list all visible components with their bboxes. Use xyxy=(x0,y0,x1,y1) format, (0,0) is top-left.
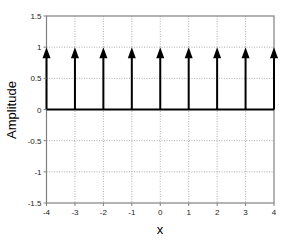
arrow-up-icon xyxy=(128,47,136,58)
x-tick-label: -1 xyxy=(128,208,136,217)
y-tick-label: -1 xyxy=(34,168,42,177)
x-tick-label: 1 xyxy=(186,208,191,217)
x-tick-label: -2 xyxy=(100,208,108,217)
x-tick-label: 4 xyxy=(272,208,277,217)
y-tick-label: -0.5 xyxy=(28,137,42,146)
y-tick-label: 0.5 xyxy=(30,74,42,83)
x-tick-label: 3 xyxy=(243,208,248,217)
y-tick-label: -1.5 xyxy=(28,199,42,208)
arrow-up-icon xyxy=(270,47,278,58)
arrow-up-icon xyxy=(43,47,51,58)
y-tick-label: 1 xyxy=(37,43,42,52)
y-tick-label: 1.5 xyxy=(30,12,42,21)
y-axis-ticks: -1.5-1-0.500.511.5 xyxy=(28,12,47,208)
y-tick-label: 0 xyxy=(37,106,42,115)
x-axis-label: x xyxy=(157,222,164,237)
impulse-stems xyxy=(43,47,279,109)
arrow-up-icon xyxy=(156,47,164,58)
arrow-up-icon xyxy=(242,47,250,58)
x-tick-label: -4 xyxy=(43,208,51,217)
arrow-up-icon xyxy=(71,47,79,58)
x-tick-label: -3 xyxy=(71,208,79,217)
x-axis-ticks: -4-3-2-101234 xyxy=(43,203,277,217)
arrow-up-icon xyxy=(213,47,221,58)
y-axis-label: Amplitude xyxy=(4,81,19,139)
x-tick-label: 0 xyxy=(158,208,163,217)
x-tick-label: 2 xyxy=(215,208,220,217)
stem-chart: -4-3-2-101234 -1.5-1-0.500.511.5 x Ampli… xyxy=(0,0,289,245)
arrow-up-icon xyxy=(99,47,107,58)
arrow-up-icon xyxy=(185,47,193,58)
